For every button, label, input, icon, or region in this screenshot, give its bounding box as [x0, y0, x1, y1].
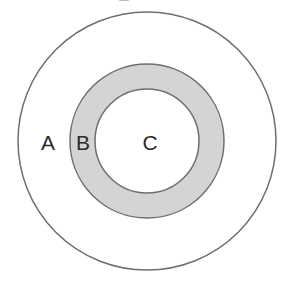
label-c: C	[142, 131, 157, 154]
label-b: B	[76, 131, 90, 154]
concentric-circles-diagram: A B C	[0, 0, 287, 281]
label-a: A	[41, 131, 55, 154]
